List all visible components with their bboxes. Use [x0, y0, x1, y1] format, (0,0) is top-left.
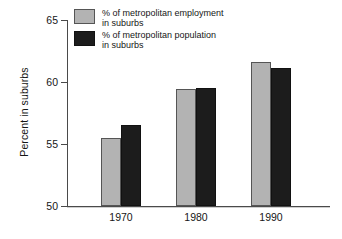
y-axis-tick-label-55: 55	[18, 139, 58, 150]
x-axis-line	[67, 206, 330, 207]
legend-label-population-line2: in suburbs	[102, 40, 144, 50]
legend-label-employment-line2: in suburbs	[102, 18, 144, 28]
y-axis-tick-label-50: 50	[18, 201, 58, 212]
black-swatch-icon	[74, 31, 95, 46]
bar-1990-population	[271, 68, 291, 206]
legend-item-employment: % of metropolitan employmentin suburbs	[74, 9, 224, 28]
gray-swatch-icon	[74, 9, 95, 24]
bar-1980-population	[196, 88, 216, 206]
bar-1970-employment	[101, 138, 121, 206]
x-axis-tick-label-1970: 1970	[91, 211, 151, 223]
legend-label-employment: % of metropolitan employmentin suburbs	[102, 9, 224, 28]
x-axis-tick-label-1980: 1980	[166, 211, 226, 223]
y-axis-tick-label-60: 60	[18, 77, 58, 88]
y-axis-tick-50	[61, 206, 67, 207]
legend-label-population-line1: % of metropolitan population	[102, 30, 216, 40]
legend-label-employment-line1: % of metropolitan employment	[102, 8, 224, 18]
chart-legend: % of metropolitan employmentin suburbs %…	[74, 9, 224, 53]
bar-1990-employment	[251, 62, 271, 206]
legend-item-population: % of metropolitan populationin suburbs	[74, 31, 224, 50]
bar-1970-population	[121, 125, 141, 206]
bar-1980-employment	[176, 89, 196, 206]
legend-label-population: % of metropolitan populationin suburbs	[102, 31, 216, 50]
y-axis-title: Percent in suburbs	[18, 32, 30, 192]
y-axis-tick-label-65: 65	[18, 15, 58, 26]
bar-chart-figure: Percent in suburbs 65 60 55 50 1970 1980…	[0, 0, 342, 239]
x-axis-tick-label-1990: 1990	[241, 211, 301, 223]
